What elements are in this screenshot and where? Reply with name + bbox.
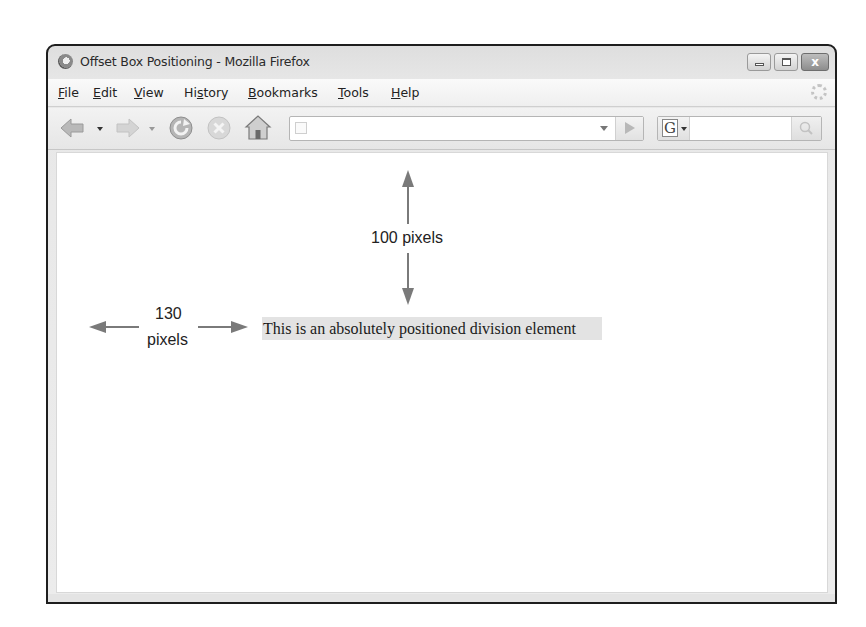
status-bar [48, 594, 835, 604]
home-icon[interactable] [244, 114, 272, 140]
menu-bookmarks-label: Bookmarks [248, 85, 318, 100]
title-bar[interactable]: Offset Box Positioning - Mozilla Firefox… [48, 46, 835, 79]
menu-history-label: History [184, 85, 228, 100]
search-bar[interactable]: G [657, 116, 822, 141]
vertical-offset-label: 100 pixels [371, 229, 443, 247]
back-icon[interactable] [60, 117, 84, 139]
magnifier-icon [792, 117, 822, 140]
google-engine-icon: G [662, 119, 678, 137]
close-button[interactable]: x [801, 53, 829, 71]
vertical-arrow-line-bottom [407, 253, 409, 289]
arrow-down-icon [402, 288, 414, 305]
url-history-dropdown-icon[interactable] [600, 126, 608, 131]
reload-icon[interactable] [168, 115, 194, 141]
window-title: Offset Box Positioning - Mozilla Firefox [80, 54, 310, 69]
search-button[interactable] [791, 117, 821, 140]
arrow-right-icon [231, 321, 248, 333]
menu-edit-label: Edit [93, 85, 117, 100]
horizontal-offset-label-unit: pixels [147, 331, 188, 349]
search-engine-selector[interactable]: G [658, 117, 690, 140]
menu-tools-label: Tools [338, 85, 369, 100]
absolutely-positioned-div: This is an absolutely positioned divisio… [262, 317, 602, 340]
horizontal-arrow-line-left [105, 326, 139, 328]
vertical-arrow-line-top [407, 186, 409, 224]
go-button[interactable] [615, 117, 643, 140]
engine-dropdown-icon [681, 127, 687, 131]
maximize-icon [782, 58, 791, 66]
horizontal-arrow-line-right [198, 326, 232, 328]
menu-help-label: Help [391, 85, 420, 100]
menu-file-label: File [58, 85, 79, 100]
url-bar[interactable] [289, 116, 644, 141]
arrow-left-icon [89, 321, 106, 333]
menu-help[interactable]: Help [391, 85, 420, 100]
stop-icon[interactable] [206, 115, 232, 141]
forward-icon[interactable] [116, 117, 140, 139]
minimize-icon [755, 63, 764, 66]
menu-history[interactable]: History [184, 85, 228, 100]
menu-bar: File Edit View History Bookmarks Tools H… [48, 79, 835, 107]
forward-history-dropdown-icon[interactable] [149, 127, 155, 131]
maximize-button[interactable] [774, 53, 798, 71]
horizontal-offset-label-value: 130 [155, 305, 182, 323]
close-icon: x [802, 54, 828, 70]
minimize-button[interactable] [747, 53, 771, 71]
menu-view-label: View [134, 85, 164, 100]
back-history-dropdown-icon[interactable] [97, 127, 103, 131]
throbber-icon [811, 84, 827, 100]
navigation-toolbar: G [48, 108, 835, 150]
menu-edit[interactable]: Edit [93, 85, 117, 100]
page-favicon-icon [295, 122, 307, 134]
window-controls: x [747, 53, 829, 71]
menu-bookmarks[interactable]: Bookmarks [248, 85, 318, 100]
menu-file[interactable]: File [58, 85, 79, 100]
page-content-area [56, 152, 828, 593]
arrow-up-icon [402, 170, 414, 187]
menu-view[interactable]: View [134, 85, 164, 100]
firefox-logo-icon [58, 54, 73, 69]
menu-tools[interactable]: Tools [338, 85, 369, 100]
